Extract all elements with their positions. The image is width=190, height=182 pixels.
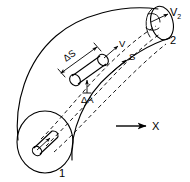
streamline-upper — [41, 26, 156, 139]
stream-tube-drawing: ΔS ΔA V S V2 2 1 — [0, 0, 190, 182]
outlet-velocity-arrow — [146, 13, 168, 30]
stream-tube-figure: ΔS ΔA V S V2 2 1 — [0, 0, 190, 182]
velocity-arrow — [104, 46, 118, 58]
x-axis-label: X — [152, 120, 160, 132]
inlet-station-label: 1 — [59, 167, 65, 179]
velocity-label: V — [119, 38, 126, 49]
element-area-label: ΔA — [81, 94, 94, 105]
element-length-label: ΔS — [61, 47, 78, 63]
streamlines-group — [41, 26, 166, 152]
streamline-coordinate-label: S — [129, 51, 135, 62]
tube-outer-wall — [17, 8, 158, 140]
outlet-velocity-subscript: 2 — [177, 13, 181, 20]
outlet-velocity-label: V2 — [170, 6, 181, 20]
outlet-station-label: 2 — [170, 34, 176, 46]
inlet-fluid-element — [31, 131, 59, 158]
streamline-middle — [46, 34, 160, 146]
